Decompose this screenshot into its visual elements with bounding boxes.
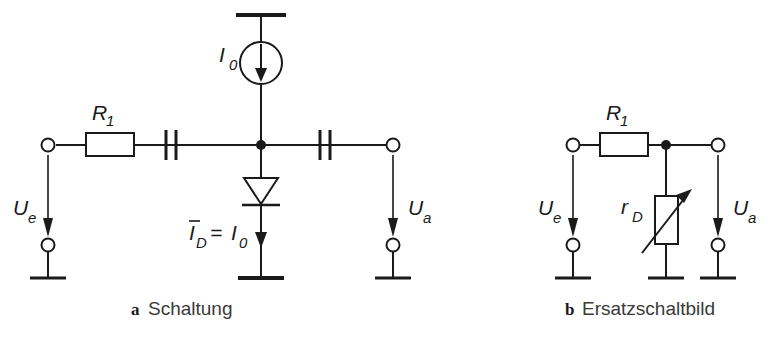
current-source-label: I 0: [219, 43, 238, 73]
output-terminal-top-a: [387, 139, 400, 152]
resistor-r1-sub-b: 1: [620, 112, 628, 129]
output-terminal-top-b: [712, 139, 725, 152]
output-voltage-label-a: U: [408, 196, 424, 219]
diode-current-equals: =: [210, 221, 222, 244]
input-terminal-top-b: [567, 139, 580, 152]
output-terminal-bottom-b: [700, 239, 736, 279]
input-voltage-sub-a: e: [28, 209, 36, 226]
input-voltage-label-a: U: [13, 196, 29, 219]
caption-b: b Ersatzschaltbild: [565, 298, 715, 319]
current-source-i0: [240, 42, 282, 145]
input-terminal-top-a: [42, 139, 55, 152]
input-voltage-arrow-a: U e: [13, 155, 53, 237]
output-terminal-bottom-a: [375, 239, 411, 279]
supply-rail-a: [236, 15, 286, 42]
resistor-r1-label-a: R: [92, 101, 107, 124]
input-voltage-arrow-b: U e: [538, 155, 578, 237]
circuit-a: I 0 R 1: [13, 15, 431, 319]
variable-resistor-label-b: r: [621, 195, 629, 218]
resistor-r1-label-b: R: [606, 101, 621, 124]
diode-current-rhs-sub: 0: [239, 234, 248, 251]
output-voltage-arrow-a: U a: [388, 155, 431, 237]
current-source-label-main: I: [219, 43, 225, 66]
resistor-r1-sub-a: 1: [106, 112, 114, 129]
output-voltage-label-b: U: [733, 196, 749, 219]
diode-current-lhs-sub: D: [196, 234, 207, 251]
diode-a: [242, 145, 280, 278]
input-terminal-bottom-b: [555, 239, 591, 279]
output-voltage-arrow-b: U a: [713, 155, 756, 237]
circuit-figure: I 0 R 1: [0, 0, 782, 337]
diode-current-label-a: I D = I 0: [189, 221, 248, 251]
current-source-label-sub: 0: [229, 56, 238, 73]
caption-text-a: Schaltung: [148, 298, 233, 319]
caption-letter-b: b: [565, 300, 574, 319]
caption-a: a Schaltung: [131, 298, 233, 319]
output-voltage-sub-a: a: [423, 209, 431, 226]
variable-resistor-sub-b: D: [632, 208, 643, 225]
resistor-r1-b: R 1: [600, 101, 648, 156]
input-voltage-label-b: U: [538, 196, 554, 219]
diode-current-rhs: I: [231, 221, 237, 244]
variable-resistor-rd-b: r D: [621, 145, 692, 277]
input-voltage-sub-b: e: [553, 209, 561, 226]
circuit-b: R 1 r D U e: [538, 101, 756, 319]
caption-text-b: Ersatzschaltbild: [582, 298, 715, 319]
input-terminal-bottom-a: [30, 239, 66, 279]
diode-current-lhs: I: [189, 221, 195, 244]
resistor-r1-a: R 1: [86, 101, 134, 156]
output-voltage-sub-b: a: [748, 209, 756, 226]
caption-letter-a: a: [131, 300, 140, 319]
